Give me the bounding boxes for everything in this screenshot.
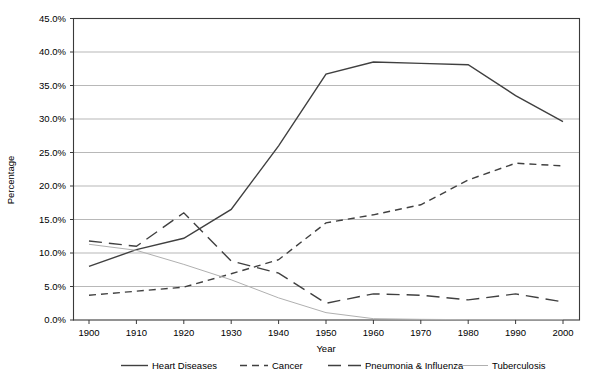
series-line-pneumonia-influenza [89,213,563,303]
x-tick-label: 1920 [173,327,194,338]
series-line-cancer [89,163,563,295]
y-tick-label: 5.0% [44,281,66,292]
x-tick-label: 1960 [363,327,384,338]
y-tick-label: 30.0% [39,113,66,124]
legend-label-heart-diseases: Heart Diseases [152,360,217,371]
legend-label-cancer: Cancer [272,360,303,371]
y-tick-label: 40.0% [39,46,66,57]
x-axis-ticks: 1900191019201930194019501960197019801990… [78,320,573,338]
x-tick-label: 1930 [221,327,242,338]
y-tick-label: 35.0% [39,80,66,91]
plot-frame [74,19,580,321]
y-axis-ticks: 0.0%5.0%10.0%15.0%20.0%25.0%30.0%35.0%40… [39,13,74,326]
y-axis-title: Percentage [5,156,16,205]
chart-container: Percentage 0.0%5.0%10.0%15.0%20.0%25.0%3… [0,0,593,392]
x-tick-label: 1950 [315,327,336,338]
series-line-tuberculosis [89,244,563,319]
y-tick-label: 25.0% [39,147,66,158]
legend-label-pneumonia-influenza: Pneumonia & Influenza [365,360,464,371]
y-axis-title-text: Percentage [5,156,16,205]
y-tick-label: 45.0% [39,13,66,24]
x-tick-label: 1900 [78,327,99,338]
x-tick-label: 1980 [458,327,479,338]
legend-label-tuberculosis: Tuberculosis [492,360,546,371]
y-tick-label: 10.0% [39,247,66,258]
x-tick-label: 2000 [552,327,573,338]
y-tick-label: 20.0% [39,180,66,191]
y-tick-label: 0.0% [44,314,66,325]
chart-legend: Heart DiseasesCancerPneumonia & Influenz… [121,360,546,371]
line-chart: Percentage 0.0%5.0%10.0%15.0%20.0%25.0%3… [0,0,593,392]
x-tick-label: 1940 [268,327,289,338]
x-tick-label: 1990 [505,327,526,338]
series-line-heart-diseases [89,62,563,266]
x-tick-label: 1910 [126,327,147,338]
x-tick-label: 1970 [410,327,431,338]
data-series-group [89,62,563,320]
x-axis-title: Year [316,343,335,354]
y-tick-label: 15.0% [39,214,66,225]
